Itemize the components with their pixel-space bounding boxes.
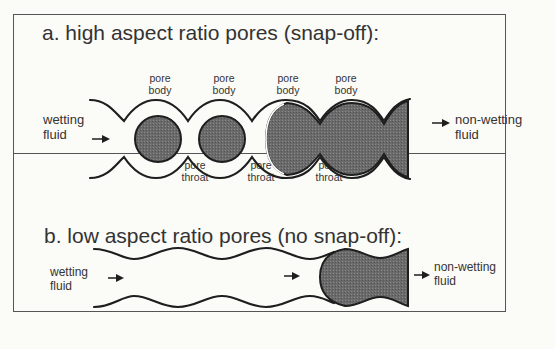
- trapped-blob-2: [199, 116, 245, 162]
- arrow-icon: [284, 272, 300, 280]
- panel-b-channel: [94, 248, 334, 307]
- trapped-blob-1: [135, 116, 181, 162]
- arrow-icon: [92, 135, 110, 143]
- arrow-icon: [414, 271, 430, 279]
- arrow-icon: [432, 119, 450, 127]
- arrow-icon: [108, 274, 124, 282]
- continuous-nonwetting-phase-a: [266, 101, 408, 177]
- pore-diagram: [0, 0, 555, 349]
- continuous-nonwetting-phase-b: [320, 249, 408, 306]
